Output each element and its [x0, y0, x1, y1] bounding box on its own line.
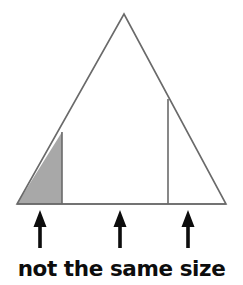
triangle-diagram: Triangle divided by two vertical lines w… [0, 0, 243, 285]
caption-layer: not the same size [0, 252, 243, 285]
arrow-right [182, 210, 195, 248]
arrow-middle [114, 210, 127, 248]
caption-label: not the same size [18, 258, 226, 280]
arrow-left [34, 210, 47, 248]
figure-container: Triangle divided by two vertical lines w… [0, 0, 243, 285]
